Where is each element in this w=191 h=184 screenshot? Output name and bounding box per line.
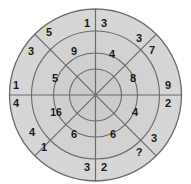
outer-label-top-left-of-vertical: 1	[84, 17, 90, 29]
middle-label-top-left: 9	[71, 45, 77, 57]
outer-label-lower-left-inner-diag: 1	[41, 141, 47, 153]
middle-label-left-upper: 5	[52, 72, 58, 84]
middle-label-bottom-right: 6	[110, 128, 116, 140]
outer-label-bottom-right-of-vertical: 2	[101, 161, 107, 173]
wheel-figure: 1 3 3 7 9 2 3 ? 2 3 1 4 4 1 3 5 9 4 8 4 …	[0, 0, 191, 184]
outer-label-bottom-left-of-vertical: 3	[84, 161, 90, 173]
outer-label-lower-right-outer-diag: 3	[151, 132, 157, 144]
circular-wheel-diagram: 1 3 3 7 9 2 3 ? 2 3 1 4 4 1 3 5 9 4 8 4 …	[0, 0, 191, 184]
outer-label-lower-right-inner-diag: ?	[136, 146, 143, 158]
middle-label-bottom-left: 6	[71, 128, 77, 140]
outer-label-left-above-horizontal: 1	[13, 79, 19, 91]
outer-label-left-below-horizontal: 4	[13, 97, 20, 109]
outer-label-upper-right-inner-diag: 3	[136, 32, 142, 44]
outer-label-upper-right-outer-diag: 7	[149, 44, 155, 56]
middle-label-left-lower: 16	[50, 106, 62, 118]
middle-label-right-upper: 8	[130, 72, 136, 84]
middle-label-top-right: 4	[109, 48, 116, 60]
outer-label-top-right-of-vertical: 3	[101, 17, 107, 29]
middle-label-right-lower: 4	[132, 106, 139, 118]
outer-label-right-below-horizontal: 2	[165, 97, 171, 109]
outer-label-upper-left-inner-diag: 5	[46, 26, 52, 38]
outer-label-upper-left-outer-diag: 3	[28, 45, 34, 57]
outer-label-lower-left-outer-diag: 4	[29, 126, 36, 138]
outer-label-right-above-horizontal: 9	[165, 79, 171, 91]
